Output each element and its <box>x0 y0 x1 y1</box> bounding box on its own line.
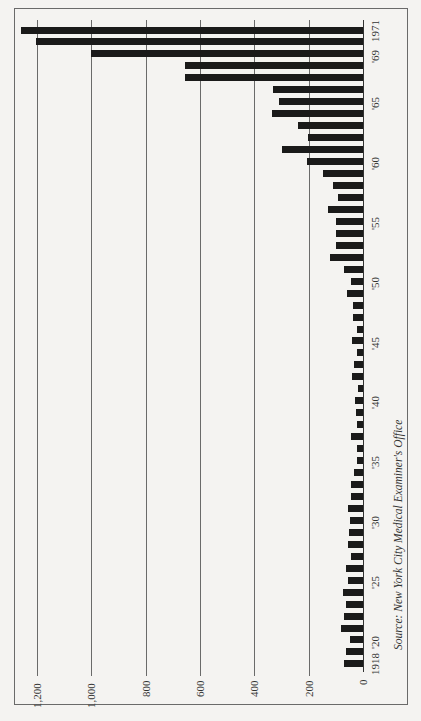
value-tick-label: 800 <box>140 680 152 697</box>
bar-1969 <box>91 50 363 57</box>
value-tick-label: 1,200 <box>31 683 43 708</box>
bar-1955 <box>336 218 363 225</box>
gridline <box>37 20 38 676</box>
gridline <box>254 20 255 676</box>
gridline <box>309 20 310 676</box>
bar-1954 <box>336 230 363 237</box>
bar-1961 <box>282 146 363 153</box>
bar-1934 <box>354 469 363 476</box>
gridline <box>200 20 201 676</box>
bar-1957 <box>338 194 363 201</box>
bar-1941 <box>358 385 363 392</box>
bar-1921 <box>341 625 363 632</box>
bar-1948 <box>353 302 363 309</box>
bar-1967 <box>185 74 363 81</box>
bar-1932 <box>351 493 363 500</box>
bar-1944 <box>357 349 363 356</box>
bar-1960 <box>307 158 363 165</box>
year-tick-label: '20 <box>369 636 381 649</box>
bar-1964 <box>272 110 363 117</box>
bar-1918 <box>344 660 363 667</box>
bar-1942 <box>352 373 363 380</box>
bar-1919 <box>346 648 363 655</box>
bar-1953 <box>336 242 363 249</box>
bar-chart: 02004006008001,0001,2001918'20'25'30'35'… <box>0 0 421 721</box>
bar-1971 <box>21 27 363 34</box>
bar-1939 <box>356 409 363 416</box>
year-tick-label: '40 <box>369 396 381 409</box>
bar-1935 <box>357 457 363 464</box>
year-tick-label: 1918 <box>369 653 381 675</box>
bar-1966 <box>273 86 363 93</box>
bar-1933 <box>351 481 363 488</box>
bar-1926 <box>346 565 363 572</box>
bar-1930 <box>350 517 363 524</box>
bar-1924 <box>343 589 363 596</box>
bar-1950 <box>351 278 363 285</box>
year-tick-label: 1971 <box>369 20 381 42</box>
bar-1951 <box>344 266 363 273</box>
bar-1940 <box>355 397 363 404</box>
value-tick-label: 200 <box>303 680 315 697</box>
value-tick-label: 0 <box>357 680 369 686</box>
bar-1946 <box>357 326 363 333</box>
bar-1927 <box>351 553 363 560</box>
bar-1923 <box>346 601 363 608</box>
year-tick-label: '55 <box>369 217 381 230</box>
bar-1937 <box>351 433 363 440</box>
bar-1958 <box>333 182 363 189</box>
bar-1963 <box>298 122 363 129</box>
bar-1962 <box>308 134 363 141</box>
bar-1965 <box>279 98 363 105</box>
bar-1922 <box>344 613 363 620</box>
year-tick-label: '60 <box>369 157 381 170</box>
year-tick-label: '50 <box>369 277 381 290</box>
value-tick-label: 400 <box>248 680 260 697</box>
year-tick-label: '30 <box>369 516 381 529</box>
bar-1943 <box>354 361 363 368</box>
gridline <box>146 20 147 676</box>
bar-1928 <box>348 541 363 548</box>
bar-1920 <box>350 636 363 643</box>
value-tick-label: 1,000 <box>85 683 97 708</box>
year-tick-label: '65 <box>369 97 381 110</box>
value-tick-label: 600 <box>194 680 206 697</box>
year-tick-label: '45 <box>369 337 381 350</box>
gridline <box>91 20 92 676</box>
bar-1949 <box>347 290 363 297</box>
bar-1936 <box>357 445 363 452</box>
bar-1931 <box>348 505 363 512</box>
bar-1970 <box>36 38 363 45</box>
year-tick-label: '25 <box>369 576 381 589</box>
bar-1952 <box>330 254 363 261</box>
baseline-axis <box>363 20 365 672</box>
bar-1925 <box>348 577 363 584</box>
source-caption: Source: New York City Medical Examiner's… <box>392 420 404 650</box>
bar-1947 <box>353 314 363 321</box>
year-tick-label: '69 <box>369 50 381 63</box>
bar-1938 <box>357 421 363 428</box>
bar-1945 <box>352 337 363 344</box>
bar-1956 <box>328 206 363 213</box>
bar-1968 <box>185 62 363 69</box>
year-tick-label: '35 <box>369 456 381 469</box>
bar-1959 <box>323 170 363 177</box>
bar-1929 <box>349 529 363 536</box>
